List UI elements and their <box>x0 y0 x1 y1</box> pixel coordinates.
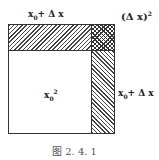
main-area-label: x02 <box>44 88 58 102</box>
corner-crosshatch-square <box>91 24 115 51</box>
figure-caption: 图 2. 4. 1 <box>52 143 97 158</box>
right-hatched-strip <box>91 50 115 134</box>
corner-area-label: (Δ x)2 <box>121 10 152 22</box>
top-hatched-strip <box>8 24 92 51</box>
square-area-diagram: x0+ Δ x (Δ x)2 x02 x0+ Δ x 图 2. 4. 1 <box>0 0 159 160</box>
right-side-label: x0+ Δ x <box>118 88 154 100</box>
top-side-label: x0+ Δ x <box>28 9 64 21</box>
